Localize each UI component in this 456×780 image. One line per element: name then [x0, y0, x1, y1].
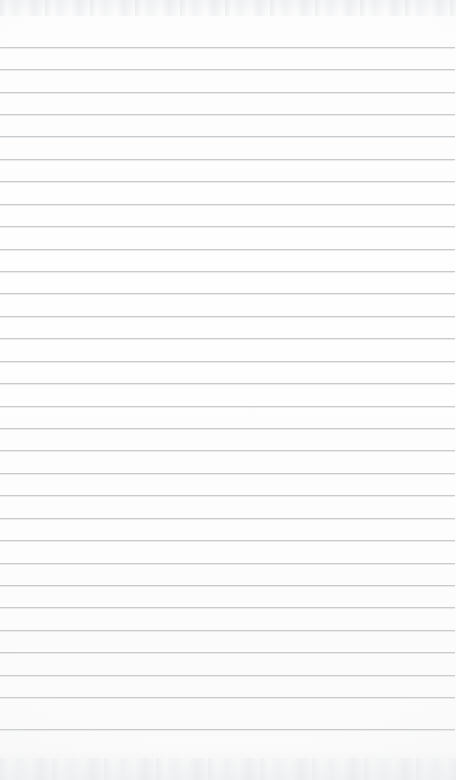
- rule-line: [0, 204, 455, 205]
- rule-line: [0, 271, 455, 272]
- rule-line: [0, 114, 455, 115]
- rule-line: [0, 361, 455, 362]
- rule-line: [0, 406, 455, 407]
- rule-line: [0, 159, 455, 160]
- rule-line: [0, 652, 455, 653]
- rule-line: [0, 293, 455, 294]
- rule-line: [0, 540, 455, 541]
- rule-line: [0, 69, 455, 70]
- rule-line: [0, 585, 455, 586]
- rule-line: [0, 697, 455, 698]
- rule-line: [0, 729, 455, 730]
- rule-line: [0, 383, 455, 384]
- rule-line: [0, 495, 455, 496]
- rule-line: [0, 47, 455, 48]
- ruled-page: [0, 0, 456, 780]
- rule-line: [0, 518, 455, 519]
- rule-line: [0, 226, 455, 227]
- rule-line: [0, 249, 455, 250]
- rule-line: [0, 181, 455, 182]
- rule-line: [0, 563, 455, 564]
- scan-noise-bottom-edge: [0, 758, 456, 780]
- rule-lines-group: [0, 0, 456, 780]
- rule-line: [0, 630, 455, 631]
- rule-line: [0, 473, 455, 474]
- rule-line: [0, 316, 455, 317]
- rule-line: [0, 428, 455, 429]
- rule-line: [0, 136, 455, 137]
- rule-line: [0, 675, 455, 676]
- rule-line: [0, 607, 455, 608]
- rule-line: [0, 450, 455, 451]
- rule-line: [0, 338, 455, 339]
- rule-line: [0, 92, 455, 93]
